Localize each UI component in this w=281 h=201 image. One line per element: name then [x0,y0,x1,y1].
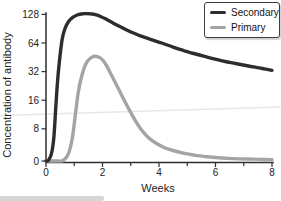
scan-artifact-strip [0,196,104,201]
legend-swatch-secondary [210,11,226,14]
x-tick-label: 0 [43,167,49,178]
y-tick-label: 0 [33,156,39,167]
y-axis-title: Concentration of antibody [1,32,13,158]
legend-label-primary: Primary [231,22,265,33]
x-tick-label: 2 [100,167,106,178]
scan-artifact-line [0,107,281,116]
legend-entry-secondary: Secondary [210,7,274,18]
x-tick-label: 4 [156,167,162,178]
x-tick-label: 8 [269,167,275,178]
x-axis-title: Weeks [141,182,175,194]
y-tick-label: 8 [33,123,39,134]
y-tick-label: 128 [22,9,39,20]
y-tick-label: 64 [28,38,40,49]
legend-entry-primary: Primary [210,22,274,33]
legend-label-secondary: Secondary [231,7,279,18]
x-tick-label: 6 [213,167,219,178]
antibody-response-figure: 0816326412802468 Weeks Concentration of … [0,0,281,201]
y-tick-label: 32 [28,66,40,77]
legend-swatch-primary [210,26,226,29]
y-tick-label: 16 [28,95,40,106]
chart-legend: SecondaryPrimary [204,2,280,38]
